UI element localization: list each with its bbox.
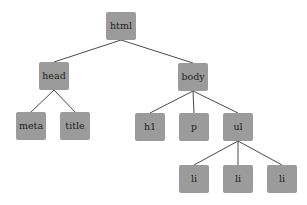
node-body: body xyxy=(178,63,208,91)
dom-tree-diagram: html head body meta title h1 p ul li li … xyxy=(0,0,307,205)
node-h1: h1 xyxy=(135,113,165,141)
edge-html-body xyxy=(121,40,193,63)
node-label: body xyxy=(181,72,204,82)
node-li-2: li xyxy=(223,165,253,193)
node-li-1: li xyxy=(179,165,209,193)
node-label: html xyxy=(110,21,132,31)
edge-html-head xyxy=(54,40,121,62)
node-label: p xyxy=(191,122,197,132)
node-label: li xyxy=(191,174,197,184)
edge-body-ul xyxy=(193,91,238,113)
node-label: li xyxy=(235,174,241,184)
node-head: head xyxy=(39,62,69,90)
node-li-3: li xyxy=(267,165,297,193)
node-label: li xyxy=(279,174,285,184)
node-p: p xyxy=(179,113,209,141)
node-meta: meta xyxy=(16,112,46,140)
node-label: title xyxy=(65,121,84,131)
node-html: html xyxy=(106,12,136,40)
edge-head-meta xyxy=(31,90,54,112)
node-label: h1 xyxy=(144,122,156,132)
edge-head-title xyxy=(54,90,75,112)
node-label: meta xyxy=(19,121,43,131)
node-title: title xyxy=(60,112,90,140)
tree-edges xyxy=(0,0,307,205)
edge-body-h1 xyxy=(150,91,193,113)
edge-body-p xyxy=(193,91,194,113)
node-label: head xyxy=(42,71,66,81)
edge-ul-li1 xyxy=(194,141,238,165)
edge-ul-li3 xyxy=(238,141,282,165)
node-ul: ul xyxy=(223,113,253,141)
node-label: ul xyxy=(233,122,242,132)
